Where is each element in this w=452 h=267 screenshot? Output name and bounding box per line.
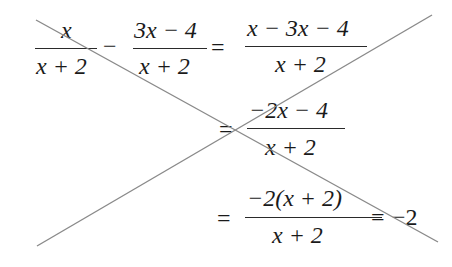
cross-out-lines [0, 0, 452, 267]
strike-line-1 [36, 20, 438, 242]
strike-line-2 [37, 15, 432, 246]
